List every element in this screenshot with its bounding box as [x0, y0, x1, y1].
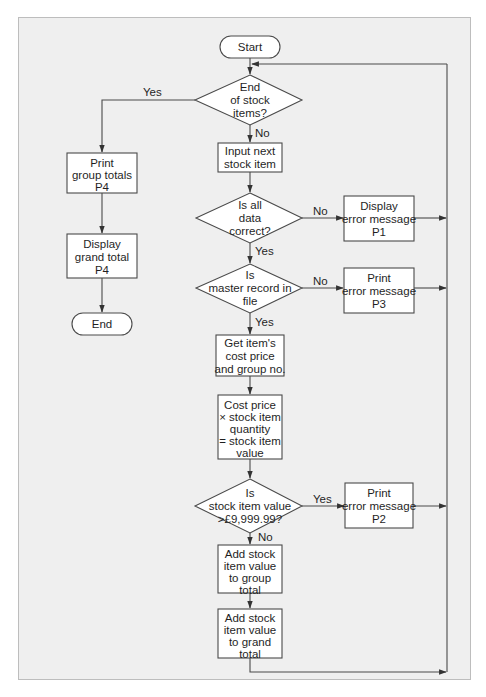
svg-text:Is all: Is all [238, 199, 262, 211]
svg-text:error message: error message [342, 285, 416, 297]
node-display-error-p1: Display error message P1 [342, 196, 416, 241]
node-get-cost-price: Get item's cost price and group no. [215, 335, 286, 376]
svg-text:Display: Display [83, 238, 121, 250]
svg-text:file: file [243, 295, 258, 307]
node-calc-stock-value: Cost price × stock item quantity = stock… [218, 395, 282, 459]
label-value-yes: Yes [313, 493, 332, 505]
svg-text:stock item: stock item [224, 158, 276, 170]
svg-text:P4: P4 [95, 264, 110, 276]
label-data-no: No [313, 205, 328, 217]
svg-text:cost price: cost price [225, 350, 274, 362]
label-master-no: No [313, 275, 328, 287]
svg-text:to grand: to grand [229, 636, 271, 648]
svg-text:grand total: grand total [75, 251, 129, 263]
svg-text:End: End [240, 81, 260, 93]
svg-text:Start: Start [238, 41, 263, 53]
svg-text:and group no.: and group no. [215, 363, 286, 375]
svg-text:value: value [236, 447, 264, 459]
svg-text:× stock item: × stock item [219, 411, 281, 423]
label-data-yes: Yes [255, 245, 274, 257]
node-is-master-record-in-file: Is master record in file [196, 264, 302, 313]
svg-text:P2: P2 [372, 513, 386, 525]
svg-text:Print: Print [367, 487, 391, 499]
svg-text:P1: P1 [372, 226, 386, 238]
node-start: Start [220, 36, 280, 58]
svg-text:End: End [92, 318, 112, 330]
node-stock-value-check: Is stock item value >£9,999.99? [195, 479, 302, 533]
svg-text:Is: Is [246, 269, 255, 281]
label-value-no: No [258, 531, 273, 543]
node-is-all-data-correct: Is all data correct? [196, 193, 302, 243]
svg-text:Input next: Input next [225, 145, 276, 157]
label-master-yes: Yes [255, 316, 274, 328]
svg-text:master record in: master record in [208, 282, 291, 294]
svg-text:Get item's: Get item's [224, 337, 276, 349]
edge-end-yes [102, 100, 195, 152]
svg-text:quantity: quantity [230, 423, 271, 435]
svg-text:item value: item value [224, 560, 276, 572]
node-display-grand-total: Display grand total P4 [67, 234, 137, 278]
node-print-error-p3: Print error message P3 [342, 268, 416, 313]
svg-text:Cost price: Cost price [224, 399, 276, 411]
svg-text:Print: Print [90, 157, 114, 169]
svg-text:>£9,999.99?: >£9,999.99? [218, 513, 282, 525]
svg-text:Is: Is [246, 487, 255, 499]
svg-text:Add stock: Add stock [225, 548, 276, 560]
node-print-error-p2: Print error message P2 [342, 483, 416, 528]
label-end-yes: Yes [143, 86, 162, 98]
svg-text:items?: items? [233, 107, 267, 119]
svg-text:Print: Print [367, 272, 391, 284]
svg-text:data: data [239, 212, 262, 224]
node-add-to-group-total: Add stock item value to group total [218, 545, 282, 596]
svg-text:error message: error message [342, 500, 416, 512]
edge-grand-loop [250, 658, 446, 672]
node-end: End [72, 313, 132, 335]
node-print-group-totals: Print group totals P4 [67, 153, 137, 193]
node-end-of-stock-items: End of stock items? [195, 75, 302, 125]
svg-text:Add stock: Add stock [225, 612, 276, 624]
node-add-to-grand-total: Add stock item value to grand total [218, 609, 282, 660]
svg-text:correct?: correct? [229, 225, 271, 237]
label-end-no: No [255, 127, 270, 139]
svg-text:error message: error message [342, 213, 416, 225]
svg-text:Display: Display [360, 200, 398, 212]
svg-text:item value: item value [224, 624, 276, 636]
svg-text:= stock item: = stock item [219, 435, 281, 447]
svg-text:of stock: of stock [230, 94, 270, 106]
node-input-next-stock-item: Input next stock item [218, 143, 282, 172]
svg-text:P3: P3 [372, 298, 386, 310]
svg-text:total: total [239, 584, 261, 596]
svg-text:to group: to group [229, 572, 271, 584]
flowchart: Yes No No Yes No Yes Yes No Start End of… [0, 0, 486, 697]
svg-text:P4: P4 [95, 181, 110, 193]
svg-text:total: total [239, 648, 261, 660]
svg-text:group totals: group totals [72, 169, 132, 181]
svg-text:stock item value: stock item value [209, 500, 291, 512]
